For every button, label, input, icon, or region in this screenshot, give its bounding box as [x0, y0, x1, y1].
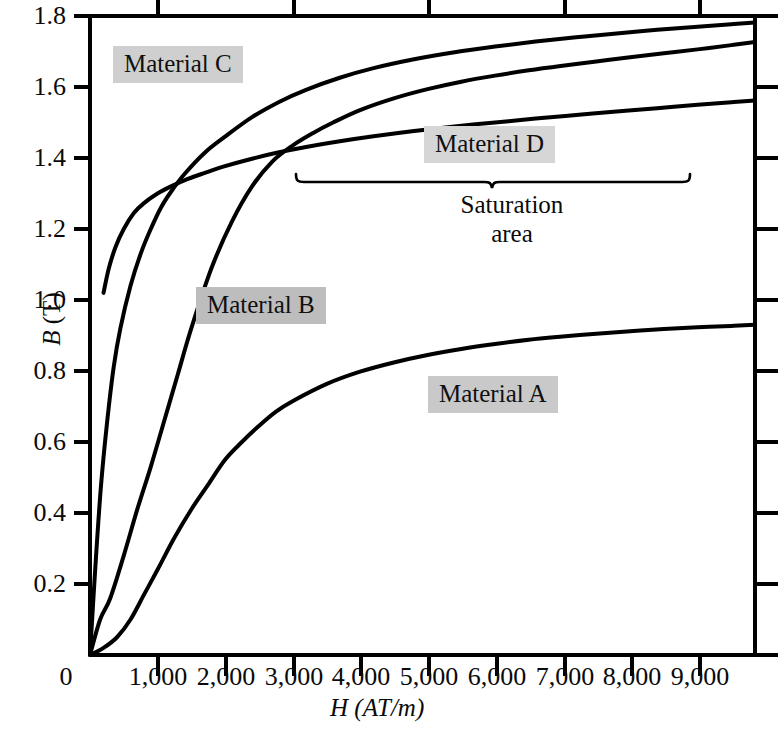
y-tick-label-1-8: 1.8 [0, 3, 66, 29]
x-tick-label-8000: 8,000 [603, 664, 662, 690]
series-label-material-c: Material C [113, 46, 243, 83]
series-label-material-a: Material A [428, 376, 558, 413]
y-tick-label-1-2: 1.2 [0, 216, 66, 242]
y-tick-label-1-4: 1.4 [0, 145, 66, 171]
x-tick-label-3000: 3,000 [265, 664, 324, 690]
x-tick-label-6000: 6,000 [468, 664, 527, 690]
series-label-material-b: Material B [196, 287, 326, 324]
y-tick-label-0-4: 0.4 [0, 500, 66, 526]
curve-group [90, 22, 755, 655]
series-label-material-d: Material D [424, 126, 555, 163]
saturation-annotation-line2: area [432, 219, 592, 248]
y-axis-title-variable: B [38, 330, 65, 345]
x-axis-title-variable: H [330, 694, 348, 721]
axis-frame [90, 16, 778, 655]
y-axis-title: B (T) [38, 259, 66, 379]
x-tick-label-1000: 1,000 [129, 664, 188, 690]
x-axis-title: H (AT/m) [330, 694, 424, 722]
saturation-brace [296, 174, 690, 188]
saturation-annotation-line1: Saturation [432, 190, 592, 219]
x-tick-label-7000: 7,000 [536, 664, 595, 690]
bh-magnetization-chart: 1.8 1.6 1.4 1.2 1.0 0.8 0.6 0.4 0.2 0 1,… [0, 0, 778, 739]
x-tick-label-2000: 2,000 [197, 664, 256, 690]
y-tick-label-1-6: 1.6 [0, 74, 66, 100]
y-axis-ticks [74, 16, 90, 584]
x-axis-ticks-top [158, 0, 700, 16]
curve-material-b [90, 42, 755, 655]
x-tick-label-4000: 4,000 [332, 664, 391, 690]
x-tick-label-9000: 9,000 [671, 664, 730, 690]
x-tick-label-0: 0 [60, 664, 73, 690]
y-axis-ticks-right [755, 16, 778, 584]
saturation-area-annotation: Saturation area [432, 190, 592, 248]
y-axis-title-unit: (T) [38, 292, 65, 330]
curve-material-a [90, 325, 755, 655]
chart-plot-area [0, 0, 778, 739]
x-tick-label-5000: 5,000 [400, 664, 459, 690]
y-tick-label-0-2: 0.2 [0, 571, 66, 597]
y-tick-label-0-6: 0.6 [0, 429, 66, 455]
x-axis-title-unit: (AT/m) [348, 694, 424, 721]
